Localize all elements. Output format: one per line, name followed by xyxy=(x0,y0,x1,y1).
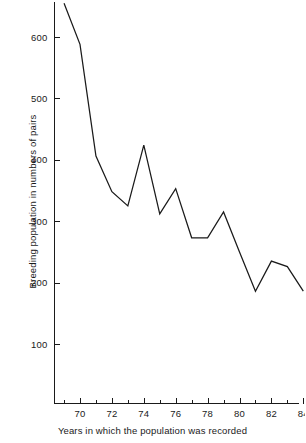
x-axis-tick-label: 74 xyxy=(138,408,149,419)
x-axis-tick-label: 72 xyxy=(106,408,117,419)
y-axis-tick-label: 400 xyxy=(31,154,47,165)
x-axis-ticks: 7072747678808284 xyxy=(65,398,305,419)
y-axis-tick-label: 200 xyxy=(31,277,47,288)
y-axis-tick-label: 300 xyxy=(31,216,47,227)
x-axis-tick-label: 78 xyxy=(202,408,213,419)
y-axis: 100200300400500600 xyxy=(31,2,59,404)
x-axis-title: Years in which the population was record… xyxy=(0,425,305,436)
plot-area: 100200300400500600 7072747678808284 xyxy=(0,0,305,443)
line-chart-figure: Breeding population in numbers of pairs … xyxy=(0,0,305,443)
y-axis-ticks: 100200300400500600 xyxy=(31,32,59,350)
x-axis-tick-label: 80 xyxy=(234,408,245,419)
x-axis-tick-label: 84 xyxy=(298,408,305,419)
x-axis-tick-label: 76 xyxy=(170,408,181,419)
x-axis-tick-label: 82 xyxy=(266,408,277,419)
x-axis-tick-label: 70 xyxy=(75,408,86,419)
data-series-line xyxy=(64,3,303,291)
y-axis-tick-label: 100 xyxy=(31,339,47,350)
y-axis-tick-label: 500 xyxy=(31,93,47,104)
y-axis-tick-label: 600 xyxy=(31,32,47,43)
x-axis: 7072747678808284 xyxy=(55,398,306,419)
